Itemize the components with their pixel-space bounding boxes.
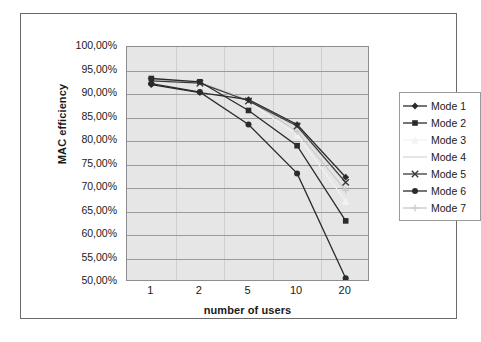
data-point-marker bbox=[412, 120, 418, 126]
series-mode-7 bbox=[148, 76, 349, 194]
x-axis-tick-labels: 1251020 bbox=[126, 284, 369, 300]
data-point-marker bbox=[149, 76, 155, 82]
legend-marker-icon bbox=[402, 133, 428, 147]
y-tick-label: 60,00% bbox=[51, 228, 117, 239]
x-tick-label: 5 bbox=[228, 284, 268, 296]
x-tick-label: 1 bbox=[130, 284, 170, 296]
x-tick-label: 20 bbox=[325, 284, 365, 296]
legend-label: Mode 6 bbox=[428, 185, 466, 197]
data-point-marker bbox=[343, 275, 349, 281]
y-tick-label: 85,00% bbox=[51, 111, 117, 122]
data-point-marker bbox=[148, 81, 154, 87]
data-point-marker bbox=[294, 170, 300, 176]
data-point-marker bbox=[246, 122, 252, 128]
data-point-marker bbox=[412, 188, 418, 194]
legend-label: Mode 1 bbox=[428, 100, 466, 112]
legend-item-mode-6[interactable]: Mode 6 bbox=[402, 182, 477, 199]
legend-marker-icon bbox=[402, 167, 428, 181]
data-point-marker bbox=[412, 102, 419, 109]
legend-label: Mode 5 bbox=[428, 168, 466, 180]
legend-item-mode-7[interactable]: Mode 7 bbox=[402, 199, 477, 216]
series-mode-3 bbox=[148, 77, 350, 205]
legend-item-mode-2[interactable]: Mode 2 bbox=[402, 114, 477, 131]
series-line bbox=[151, 81, 345, 183]
chart-frame: MAC efficiency 100,00%95,00%90,00%85,00%… bbox=[20, 13, 457, 319]
data-point-marker bbox=[197, 89, 203, 95]
plot-area bbox=[126, 46, 369, 281]
legend-label: Mode 2 bbox=[428, 117, 466, 129]
legend-item-mode-1[interactable]: Mode 1 bbox=[402, 97, 477, 114]
x-tick-label: 10 bbox=[276, 284, 316, 296]
y-tick-label: 50,00% bbox=[51, 275, 117, 286]
x-tick-label: 2 bbox=[179, 284, 219, 296]
y-tick-label: 90,00% bbox=[51, 87, 117, 98]
legend-label: Mode 3 bbox=[428, 134, 466, 146]
x-axis-title: number of users bbox=[126, 304, 369, 316]
legend-label: Mode 7 bbox=[428, 202, 466, 214]
legend-marker-icon bbox=[402, 99, 428, 113]
data-point-marker bbox=[197, 79, 203, 85]
y-tick-label: 75,00% bbox=[51, 158, 117, 169]
series-line bbox=[151, 80, 345, 183]
series-plot bbox=[127, 47, 369, 281]
legend-item-mode-5[interactable]: Mode 5 bbox=[402, 165, 477, 182]
legend-marker-icon bbox=[402, 184, 428, 198]
legend-marker-icon bbox=[402, 201, 428, 215]
legend-label: Mode 4 bbox=[428, 151, 466, 163]
y-axis-tick-labels: 100,00%95,00%90,00%85,00%80,00%75,00%70,… bbox=[51, 46, 117, 281]
series-line bbox=[151, 79, 345, 190]
legend-item-mode-4[interactable]: Mode 4 bbox=[402, 148, 477, 165]
data-point-marker bbox=[294, 143, 300, 149]
legend-item-mode-3[interactable]: Mode 3 bbox=[402, 131, 477, 148]
y-tick-label: 65,00% bbox=[51, 205, 117, 216]
series-mode-4 bbox=[151, 80, 345, 183]
y-tick-label: 55,00% bbox=[51, 252, 117, 263]
data-point-marker bbox=[412, 204, 419, 211]
data-point-marker bbox=[343, 218, 349, 224]
legend-marker-icon bbox=[402, 116, 428, 130]
legend-marker-icon bbox=[402, 150, 428, 164]
y-tick-label: 80,00% bbox=[51, 134, 117, 145]
y-tick-label: 100,00% bbox=[51, 40, 117, 51]
series-mode-5 bbox=[148, 78, 349, 186]
data-point-marker bbox=[246, 108, 252, 114]
chart-legend: Mode 1Mode 2Mode 3Mode 4Mode 5Mode 6Mode… bbox=[399, 92, 481, 221]
y-tick-label: 95,00% bbox=[51, 64, 117, 75]
series-mode-1 bbox=[148, 81, 349, 180]
y-tick-label: 70,00% bbox=[51, 181, 117, 192]
